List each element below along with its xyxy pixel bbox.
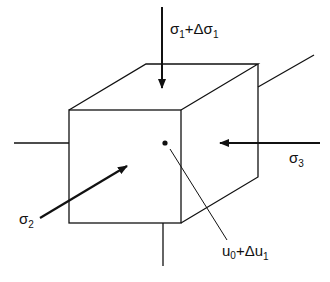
sigma3-label: σ3 bbox=[289, 149, 304, 169]
sigma2-arrow bbox=[40, 166, 127, 218]
pore-leader-line bbox=[170, 149, 227, 240]
axis-right-back bbox=[258, 55, 314, 87]
sigma2-label: σ2 bbox=[19, 210, 34, 230]
sigma1-label: σ1+Δσ1 bbox=[170, 20, 219, 40]
cube-top-face bbox=[69, 64, 258, 110]
stress-cube-diagram: σ1+Δσ1 σ3 σ2 u0+Δu1 bbox=[0, 0, 330, 282]
pore-pressure-label: u0+Δu1 bbox=[222, 242, 269, 262]
pore-point-icon bbox=[162, 140, 167, 145]
